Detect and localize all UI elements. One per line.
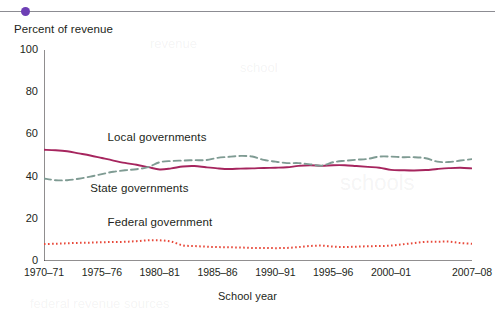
y-axis-title: Percent of revenue — [14, 23, 113, 35]
x-tick-label-5: 1995–96 — [300, 266, 366, 278]
line-chart-svg — [44, 50, 472, 261]
y-tick-label-40: 40 — [4, 170, 38, 182]
axis-spines — [44, 50, 472, 261]
y-tick-label-60: 60 — [4, 127, 38, 139]
chart-plot-area — [44, 50, 472, 261]
y-tick-label-80: 80 — [4, 85, 38, 97]
x-tick-label-0: 1970–71 — [11, 266, 77, 278]
series-label-local-governments: Local governments — [108, 131, 207, 143]
x-tick-label-4: 1990–91 — [242, 266, 308, 278]
header-bullet-icon — [21, 7, 30, 16]
series-line-local-governments — [44, 150, 472, 171]
y-tick-label-20: 20 — [4, 212, 38, 224]
x-tick-label-3: 1985–86 — [185, 266, 251, 278]
x-tick-label-7: 2007–08 — [439, 266, 495, 278]
x-axis-title: School year — [0, 290, 495, 302]
series-line-federal-government — [44, 240, 472, 248]
series-label-state-governments: State governments — [90, 182, 188, 194]
x-tick-label-2: 1980–81 — [127, 266, 193, 278]
series-label-federal-government: Federal government — [108, 216, 213, 228]
x-tick-label-6: 2000–01 — [358, 266, 424, 278]
page-bleed-artifact: revenue — [150, 36, 197, 51]
header-rule — [0, 11, 495, 12]
y-tick-label-100: 100 — [4, 43, 38, 55]
x-tick-label-1: 1975–76 — [69, 266, 135, 278]
y-tick-label-0: 0 — [4, 254, 38, 266]
